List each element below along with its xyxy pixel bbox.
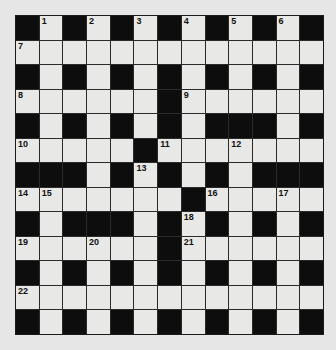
grid-cell[interactable]: 13 [134,163,157,187]
grid-cell[interactable] [253,237,276,261]
grid-cell[interactable]: 11 [158,139,181,163]
grid-cell[interactable]: 21 [182,237,205,261]
grid-cell[interactable] [40,114,63,138]
grid-cell[interactable]: 4 [182,16,205,40]
grid-cell[interactable] [134,261,157,285]
grid-cell[interactable] [134,212,157,236]
grid-cell[interactable] [277,114,300,138]
grid-cell[interactable] [229,237,252,261]
grid-cell[interactable] [277,310,300,334]
grid-cell[interactable] [182,139,205,163]
grid-cell[interactable] [277,237,300,261]
grid-cell[interactable] [253,286,276,310]
grid-cell[interactable] [277,41,300,65]
grid-cell[interactable] [253,41,276,65]
grid-cell[interactable] [229,188,252,212]
grid-cell[interactable]: 19 [16,237,39,261]
grid-cell[interactable] [63,90,86,114]
grid-cell[interactable] [63,286,86,310]
grid-cell[interactable] [40,41,63,65]
grid-cell[interactable] [87,41,110,65]
grid-cell[interactable] [63,237,86,261]
grid-cell[interactable]: 17 [277,188,300,212]
grid-cell[interactable] [134,114,157,138]
grid-cell[interactable]: 18 [182,212,205,236]
grid-cell[interactable]: 10 [16,139,39,163]
grid-cell[interactable] [134,41,157,65]
grid-cell[interactable]: 6 [277,16,300,40]
grid-cell[interactable] [87,90,110,114]
grid-cell[interactable] [40,90,63,114]
grid-cell[interactable]: 3 [134,16,157,40]
grid-cell[interactable] [87,65,110,89]
grid-cell[interactable] [158,286,181,310]
grid-cell[interactable] [134,90,157,114]
grid-cell[interactable] [87,139,110,163]
grid-cell[interactable] [300,286,323,310]
grid-cell[interactable] [206,139,229,163]
grid-cell[interactable] [182,114,205,138]
grid-cell[interactable] [206,41,229,65]
grid-cell[interactable] [300,90,323,114]
grid-cell[interactable] [300,139,323,163]
grid-cell[interactable] [87,286,110,310]
grid-cell[interactable] [277,65,300,89]
grid-cell[interactable]: 9 [182,90,205,114]
grid-cell[interactable] [206,90,229,114]
grid-cell[interactable] [182,65,205,89]
grid-cell[interactable] [40,139,63,163]
grid-cell[interactable]: 1 [40,16,63,40]
grid-cell[interactable] [182,286,205,310]
grid-cell[interactable] [277,261,300,285]
grid-cell[interactable] [87,261,110,285]
grid-cell[interactable] [253,188,276,212]
grid-cell[interactable] [300,188,323,212]
grid-cell[interactable] [277,286,300,310]
grid-cell[interactable]: 22 [16,286,39,310]
grid-cell[interactable] [40,286,63,310]
grid-cell[interactable] [63,41,86,65]
grid-cell[interactable] [300,237,323,261]
grid-cell[interactable] [253,139,276,163]
grid-cell[interactable] [300,41,323,65]
grid-cell[interactable] [229,90,252,114]
grid-cell[interactable] [229,286,252,310]
grid-cell[interactable] [87,188,110,212]
grid-cell[interactable] [206,237,229,261]
grid-cell[interactable] [229,65,252,89]
grid-cell[interactable] [40,261,63,285]
grid-cell[interactable] [134,188,157,212]
grid-cell[interactable] [87,114,110,138]
grid-cell[interactable] [277,212,300,236]
grid-cell[interactable] [182,163,205,187]
grid-cell[interactable] [134,310,157,334]
grid-cell[interactable] [229,310,252,334]
grid-cell[interactable] [229,261,252,285]
grid-cell[interactable] [277,139,300,163]
grid-cell[interactable] [111,139,134,163]
grid-cell[interactable] [158,41,181,65]
grid-cell[interactable]: 7 [16,41,39,65]
grid-cell[interactable]: 5 [229,16,252,40]
grid-cell[interactable] [111,90,134,114]
grid-cell[interactable]: 2 [87,16,110,40]
grid-cell[interactable] [111,237,134,261]
grid-cell[interactable]: 14 [16,188,39,212]
grid-cell[interactable] [40,212,63,236]
grid-cell[interactable] [277,90,300,114]
grid-cell[interactable]: 15 [40,188,63,212]
grid-cell[interactable] [134,237,157,261]
grid-cell[interactable] [111,188,134,212]
grid-cell[interactable]: 16 [206,188,229,212]
grid-cell[interactable] [158,188,181,212]
grid-cell[interactable] [40,65,63,89]
grid-cell[interactable] [229,41,252,65]
grid-cell[interactable] [40,237,63,261]
grid-cell[interactable] [111,41,134,65]
grid-cell[interactable] [134,65,157,89]
grid-cell[interactable] [229,212,252,236]
grid-cell[interactable] [134,286,157,310]
grid-cell[interactable] [182,310,205,334]
grid-cell[interactable]: 8 [16,90,39,114]
grid-cell[interactable] [87,310,110,334]
